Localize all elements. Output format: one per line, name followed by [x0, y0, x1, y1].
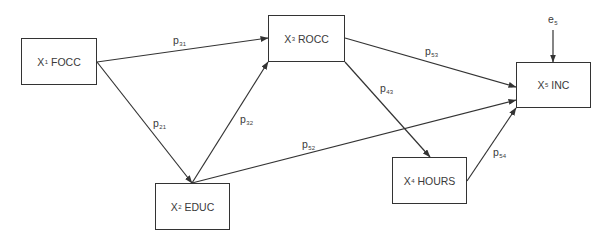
label-base: p: [380, 82, 386, 94]
label-base: p: [240, 113, 246, 125]
node-sub: 2: [178, 204, 181, 210]
node-var: X: [37, 56, 44, 68]
label-base: p: [153, 117, 159, 129]
label-p43: p43: [380, 82, 393, 95]
label-base: p: [173, 34, 179, 46]
label-sub: 32: [246, 120, 253, 126]
node-label: EDUC: [185, 201, 215, 213]
node-x3-rocc: X3 ROCC: [268, 15, 345, 62]
arrow-p32: [192, 62, 268, 183]
node-var: X: [284, 33, 291, 45]
label-p53: p53: [425, 45, 438, 58]
label-base: p: [493, 146, 499, 158]
node-sub: 1: [45, 59, 48, 65]
label-e5: e5: [548, 13, 558, 26]
arrow-p54: [467, 108, 516, 181]
node-sub: 5: [545, 82, 548, 88]
node-label: FOCC: [51, 56, 81, 68]
node-label: HOURS: [417, 175, 455, 187]
label-p32: p32: [240, 113, 253, 126]
node-var: X: [538, 79, 545, 91]
label-sub: 5: [554, 20, 557, 26]
label-sub: 43: [386, 89, 393, 95]
label-sub: 52: [308, 145, 315, 151]
node-label: INC: [551, 79, 569, 91]
label-sub: 31: [179, 41, 186, 47]
label-sub: 54: [499, 153, 506, 159]
node-x1-focc: X1 FOCC: [21, 38, 97, 85]
label-base: e: [548, 13, 554, 25]
node-x2-educ: X2 EDUC: [155, 183, 230, 230]
node-x4-hours: X4 HOURS: [392, 157, 467, 204]
label-sub: 21: [159, 124, 166, 130]
node-label: ROCC: [298, 33, 329, 45]
label-sub: 53: [431, 52, 438, 58]
node-sub: 4: [411, 178, 414, 184]
label-base: p: [425, 45, 431, 57]
node-var: X: [404, 175, 411, 187]
arrow-p43: [345, 62, 430, 157]
label-p52: p52: [302, 138, 315, 151]
node-sub: 3: [292, 36, 295, 42]
label-p31: p31: [173, 34, 186, 47]
arrow-p21: [97, 62, 192, 183]
label-p54: p54: [493, 146, 506, 159]
label-base: p: [302, 138, 308, 150]
node-x5-inc: X5 INC: [516, 62, 591, 108]
node-var: X: [171, 201, 178, 213]
label-p21: p21: [153, 117, 166, 130]
